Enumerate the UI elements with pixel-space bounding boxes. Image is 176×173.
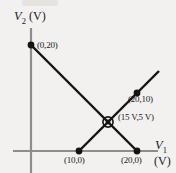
point-10-0-marker [76, 148, 83, 155]
point-label-y-intercept: (0,20) [37, 41, 58, 50]
point-label-20-0: (20,0) [121, 156, 142, 165]
y-axis-symbol: V [14, 9, 22, 23]
descending-line [31, 45, 137, 151]
x-axis-subscript: 1 [163, 145, 167, 155]
y-axis-label: V2 (V) [14, 10, 46, 25]
intersection-point-marker [106, 120, 111, 125]
point-label-10-0: (10,0) [64, 156, 85, 165]
x-axis-unit: (V) [154, 155, 171, 167]
x-axis-symbol: V [155, 138, 163, 152]
x-axis-label: V1 [155, 139, 167, 154]
point-20-0-marker [134, 148, 141, 155]
point-label-intersection: (15 V,5 V) [118, 113, 154, 122]
point-label-20-10: (20,10) [128, 95, 153, 104]
voltage-intersection-diagram [0, 0, 176, 173]
y-axis-unit: (V) [29, 9, 46, 23]
point-0-20-marker [28, 42, 35, 49]
rising-line [79, 71, 159, 151]
y-axis-subscript: 2 [22, 16, 26, 26]
